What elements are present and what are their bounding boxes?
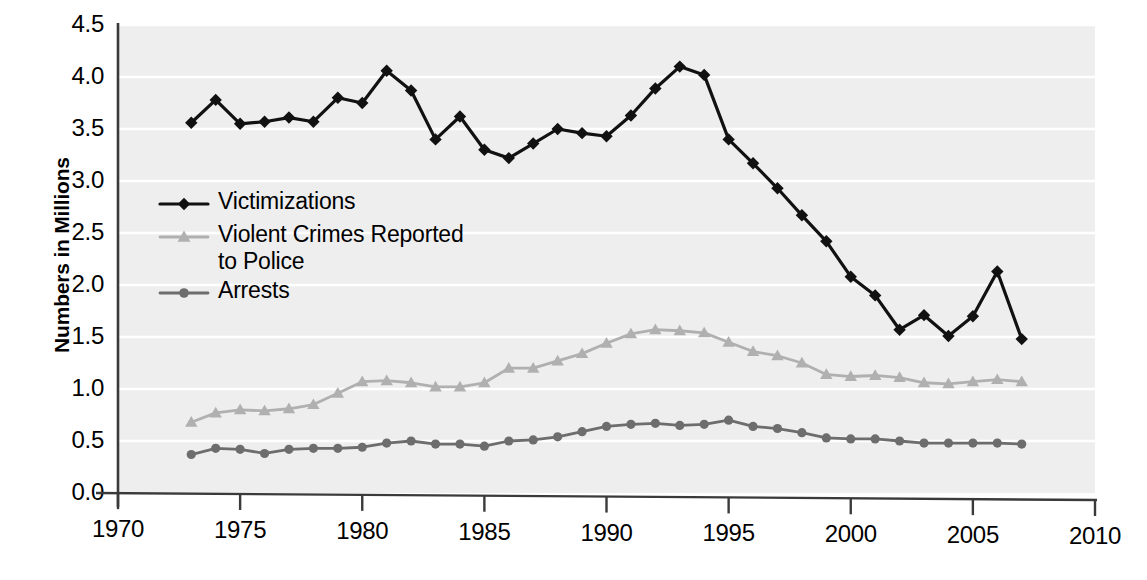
x-axis-line — [96, 493, 1097, 500]
data-point-marker — [675, 421, 684, 430]
data-point-marker — [455, 440, 464, 449]
data-point-marker — [236, 445, 245, 454]
legend-item: Arrests — [158, 277, 488, 307]
data-point-marker — [407, 436, 416, 445]
data-point-marker — [504, 436, 513, 445]
data-point-marker — [626, 420, 635, 429]
data-point-marker — [553, 432, 562, 441]
legend-item: Violent Crimes Reported to Police — [158, 221, 488, 274]
data-point-marker — [822, 433, 831, 442]
data-point-marker — [602, 422, 611, 431]
data-point-marker — [748, 422, 757, 431]
data-point-marker — [968, 438, 977, 447]
data-point-marker — [480, 442, 489, 451]
data-point-marker — [529, 435, 538, 444]
data-point-marker — [179, 289, 189, 299]
data-point-marker — [211, 444, 220, 453]
legend-label: Victimizations — [218, 188, 355, 215]
data-point-marker — [919, 438, 928, 447]
data-point-marker — [284, 445, 293, 454]
data-point-marker — [871, 434, 880, 443]
legend-label: Arrests — [218, 277, 289, 304]
data-point-marker — [944, 438, 953, 447]
data-point-marker — [178, 198, 190, 210]
data-point-marker — [724, 416, 733, 425]
data-point-marker — [993, 438, 1002, 447]
data-point-marker — [651, 419, 660, 428]
chart-legend: VictimizationsViolent Crimes Reported to… — [158, 188, 488, 310]
legend-marker-diamond-icon — [158, 190, 210, 218]
data-point-marker — [895, 436, 904, 445]
data-point-marker — [773, 424, 782, 433]
data-point-marker — [1017, 440, 1026, 449]
legend-marker-circle-icon — [158, 279, 210, 307]
legend-item: Victimizations — [158, 188, 488, 218]
data-point-marker — [846, 434, 855, 443]
data-point-marker — [577, 427, 586, 436]
data-point-marker — [700, 420, 709, 429]
data-point-marker — [382, 438, 391, 447]
x-axis-ticks — [118, 493, 1095, 516]
data-point-marker — [358, 443, 367, 452]
line-chart: Numbers in Millions 0.00.51.01.52.02.53.… — [0, 0, 1147, 580]
data-point-marker — [309, 444, 318, 453]
data-point-marker — [797, 428, 806, 437]
data-point-marker — [187, 450, 196, 459]
page-caption-fragment — [10, 564, 610, 576]
data-point-marker — [431, 440, 440, 449]
legend-marker-triangle-icon — [158, 223, 210, 251]
data-point-marker — [333, 444, 342, 453]
data-point-marker — [260, 449, 269, 458]
legend-label: Violent Crimes Reported to Police — [218, 221, 464, 274]
